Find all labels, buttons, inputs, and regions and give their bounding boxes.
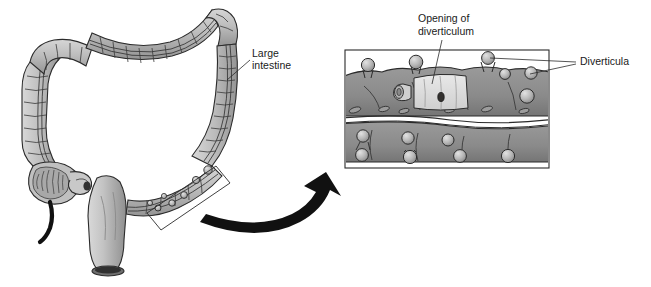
opening-label-line2: diverticulum (418, 25, 474, 37)
ileum (68, 172, 91, 195)
transverse-colon (86, 10, 218, 63)
figure-root: Large intestine Opening of diverticulum … (0, 0, 651, 287)
label-diverticula: Diverticula (580, 55, 629, 67)
illustration-canvas: Large intestine Opening of diverticulum … (0, 0, 651, 287)
diverticula-detail (340, 50, 556, 168)
magnification-arrow (200, 172, 341, 233)
large-intestine-label-line1: Large (252, 47, 279, 59)
ascending-colon (22, 58, 60, 168)
rectum (88, 176, 126, 276)
large-intestine-overview (22, 9, 250, 276)
cutaway-window (414, 74, 468, 110)
left-colic-flexure (30, 39, 92, 74)
label-opening-of-diverticulum: Opening of diverticulum (418, 12, 474, 37)
large-intestine-label-line2: intestine (252, 59, 291, 71)
diverticulum-opening (438, 92, 444, 101)
diverticula-label: Diverticula (580, 55, 629, 67)
appendix (40, 202, 52, 242)
diverticulum-neck-cutaway (394, 84, 412, 101)
label-large-intestine: Large intestine (252, 47, 291, 71)
descending-colon (192, 44, 237, 166)
sigmoid-colon (126, 166, 222, 216)
opening-label-line1: Opening of (418, 12, 469, 24)
